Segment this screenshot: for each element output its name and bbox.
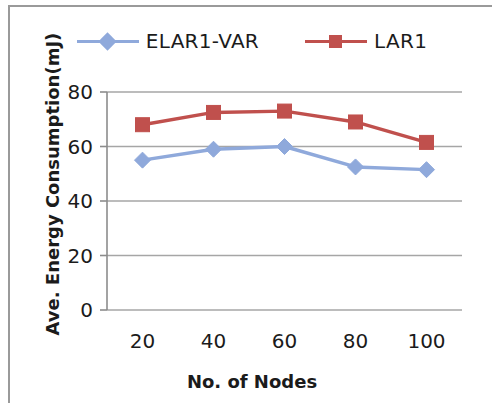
axis-lines-group (100, 92, 107, 310)
data-point-diamond-marker (419, 162, 435, 178)
chart-frame: ELAR1-VAR LAR1 Ave. Energy Consumption(m… (8, 5, 492, 403)
chart-svg: 020406080 20406080100 (10, 7, 494, 405)
data-point-diamond-marker (348, 159, 364, 175)
data-point-diamond-marker (135, 152, 151, 168)
x-tick-label: 60 (272, 329, 297, 353)
y-tick-label: 80 (68, 80, 93, 104)
data-series-group (135, 104, 435, 178)
data-point-square-marker (207, 105, 221, 119)
data-point-square-marker (136, 118, 150, 132)
y-tick-label: 60 (68, 135, 93, 159)
x-tick-label: 100 (407, 329, 445, 353)
series-elar1-var (135, 139, 435, 178)
x-tick-label: 40 (201, 329, 226, 353)
y-tick-labels-group: 020406080 (68, 80, 93, 322)
y-tick-label: 0 (80, 298, 93, 322)
data-point-diamond-marker (206, 141, 222, 157)
x-tick-labels-group: 20406080100 (130, 329, 446, 353)
gridlines-group (107, 92, 462, 310)
data-point-square-marker (349, 115, 363, 129)
y-tick-label: 40 (68, 189, 93, 213)
data-point-diamond-marker (277, 139, 293, 155)
y-tick-label: 20 (68, 244, 93, 268)
plot-area: 020406080 20406080100 (10, 7, 494, 405)
x-axis-title: No. of Nodes (10, 371, 494, 392)
data-point-square-marker (278, 104, 292, 118)
data-point-square-marker (420, 135, 434, 149)
x-tick-label: 80 (343, 329, 368, 353)
x-tick-label: 20 (130, 329, 155, 353)
